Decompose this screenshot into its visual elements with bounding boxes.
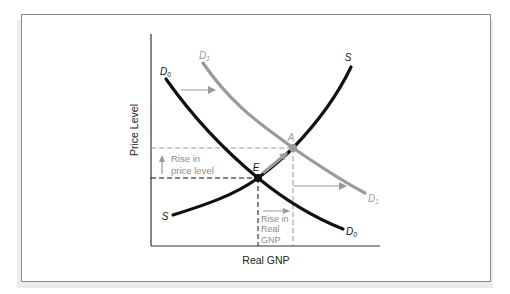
point-a-marker [289,144,297,152]
point-a-label: A [287,132,295,143]
y-axis-label: Price Level [128,104,140,156]
equilibrium-move-arrow [263,153,287,173]
s-label-bottom: S [162,211,169,222]
point-e-marker [254,174,262,182]
d1-label-top: D1 [199,50,210,62]
rise-gnp-text-2: Real [261,224,280,234]
d0-label-bottom: D0 [346,226,357,238]
d1-label-bottom: D1 [368,193,379,205]
s-label-top: S [345,52,352,63]
rise-price-text-1: Rise in [171,153,200,164]
ad-as-diagram: Price Level Real GNP S S D0 D0 D1 D1 E A… [0,0,510,294]
demand-curve-d1 [203,63,365,193]
rise-price-text-2: price level [171,165,214,176]
x-axis-label: Real GNP [242,254,289,266]
point-e-label: E [253,162,260,173]
d0-label-top: D0 [160,66,171,78]
rise-gnp-text-1: Rise in [261,214,289,224]
supply-curve [173,67,351,215]
rise-gnp-text-3: GNP [261,235,281,245]
